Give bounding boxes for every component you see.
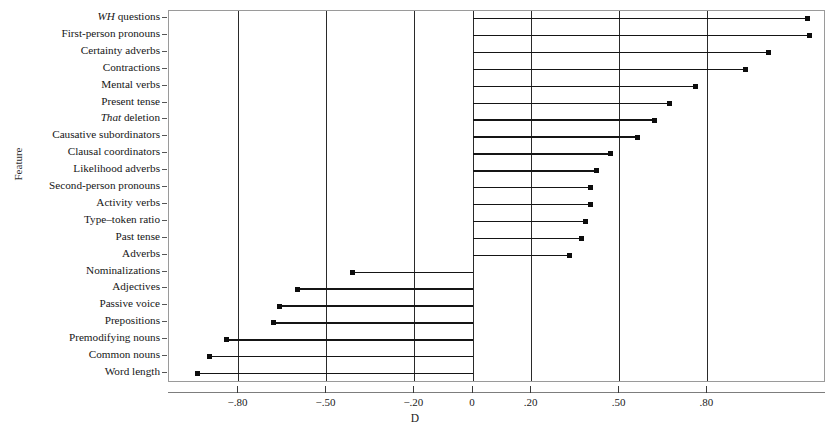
value-marker (567, 253, 572, 258)
y-axis-tick (162, 271, 167, 272)
category-label-column: WH questionsFirst-person pronounsCertain… (0, 0, 160, 429)
value-bar (473, 69, 745, 70)
y-axis-tick (162, 118, 167, 119)
category-label: Likelihood adverbs (0, 163, 160, 174)
value-bar (227, 339, 473, 340)
value-marker (594, 168, 599, 173)
x-axis-tick (472, 386, 473, 393)
value-marker (608, 151, 613, 156)
gridline-x (707, 11, 708, 381)
category-label: Adjectives (0, 281, 160, 292)
value-marker (807, 33, 812, 38)
y-axis-tick (162, 304, 167, 305)
value-marker (195, 371, 200, 376)
y-axis-tick (162, 169, 167, 170)
category-label: Contractions (0, 62, 160, 73)
x-axis-tick-label: .50 (589, 396, 649, 408)
y-axis-tick (162, 85, 167, 86)
category-label: Mental verbs (0, 79, 160, 90)
y-axis-tick (162, 254, 167, 255)
value-marker (579, 236, 584, 241)
value-marker (224, 337, 229, 342)
y-axis-tick (162, 203, 167, 204)
y-axis-tick (162, 237, 167, 238)
value-marker (350, 270, 355, 275)
category-label: Past tense (0, 231, 160, 242)
y-axis-tick (162, 17, 167, 18)
value-bar (473, 136, 637, 137)
value-marker (271, 320, 276, 325)
value-bar (473, 153, 611, 154)
x-axis-tick-label: −.80 (208, 396, 268, 408)
y-axis-tick (162, 152, 167, 153)
value-bar (473, 18, 807, 19)
y-axis-tick (162, 68, 167, 69)
value-bar (473, 35, 810, 36)
y-axis-tick (162, 135, 167, 136)
value-bar (274, 322, 473, 323)
x-axis-tick (325, 386, 326, 393)
category-label: Prepositions (0, 315, 160, 326)
x-axis-title: D (0, 412, 830, 424)
gridline-x (326, 11, 327, 381)
gridline-x (473, 11, 474, 381)
y-axis-tick (162, 34, 167, 35)
value-marker (635, 135, 640, 140)
category-label: Common nouns (0, 349, 160, 360)
value-marker (693, 84, 698, 89)
gridline-x (414, 11, 415, 381)
value-bar (473, 103, 669, 104)
category-label: Nominalizations (0, 265, 160, 276)
y-axis-tick (162, 186, 167, 187)
x-axis-tick (618, 386, 619, 393)
value-marker (805, 16, 810, 21)
value-marker (652, 118, 657, 123)
value-marker (588, 202, 593, 207)
y-axis-tick (162, 102, 167, 103)
value-bar (473, 238, 581, 239)
x-axis-tick (530, 386, 531, 393)
category-label: Premodifying nouns (0, 332, 160, 343)
x-axis-tick-label: −.50 (296, 396, 356, 408)
category-label: WH questions (0, 11, 160, 22)
category-label: Second-person pronouns (0, 180, 160, 191)
value-bar (353, 272, 473, 273)
x-axis-tick-label: −.20 (383, 396, 443, 408)
y-axis-tick (162, 220, 167, 221)
value-marker (743, 67, 748, 72)
value-bar (209, 356, 473, 357)
value-bar (473, 170, 596, 171)
gridline-x (531, 11, 532, 381)
value-marker (207, 354, 212, 359)
value-bar (473, 119, 655, 120)
y-axis-tick (162, 287, 167, 288)
value-marker (588, 185, 593, 190)
category-label: Certainty adverbs (0, 45, 160, 56)
value-bar (473, 255, 570, 256)
category-label: Activity verbs (0, 197, 160, 208)
category-label: That deletion (0, 112, 160, 123)
y-axis-tick (162, 338, 167, 339)
category-label: Adverbs (0, 248, 160, 259)
value-marker (583, 219, 588, 224)
category-label: Type–token ratio (0, 214, 160, 225)
category-label: Passive voice (0, 298, 160, 309)
category-label: Causative subordinators (0, 129, 160, 140)
value-bar (198, 373, 473, 374)
gridline-x (619, 11, 620, 381)
x-axis-tick (237, 386, 238, 393)
category-label: Clausal coordinators (0, 146, 160, 157)
x-axis-line (168, 392, 825, 393)
gridline-x (238, 11, 239, 381)
value-bar (473, 52, 769, 53)
value-bar (473, 187, 590, 188)
y-axis-tick (162, 372, 167, 373)
lollipop-chart-figure: Feature WH questionsFirst-person pronoun… (0, 0, 830, 429)
x-axis-tick (706, 386, 707, 393)
category-label: First-person pronouns (0, 28, 160, 39)
value-marker (667, 101, 672, 106)
value-bar (473, 221, 586, 222)
y-axis-tick (162, 321, 167, 322)
x-axis-tick (413, 386, 414, 393)
value-bar (280, 305, 473, 306)
